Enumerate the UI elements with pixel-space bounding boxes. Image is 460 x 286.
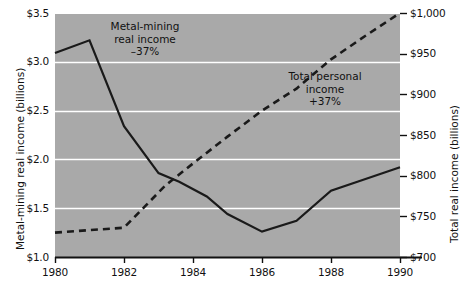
annotation-metal-mining-line2: real income <box>92 33 198 46</box>
left-axis-title: Metal-mining real income (billions) <box>14 68 26 250</box>
annotation-metal-mining: Metal-mining real income –37% <box>92 20 198 58</box>
right-axis-tick-label: $900 <box>410 88 436 100</box>
right-axis-tick-label: $950 <box>410 47 436 59</box>
right-axis-tick-label: $700 <box>410 251 436 263</box>
annotation-total-personal-line2: income <box>272 83 378 96</box>
x-axis-tick-label: 1988 <box>306 266 356 278</box>
x-axis-tick-label: 1982 <box>99 266 149 278</box>
right-axis-tick-label: $750 <box>410 210 436 222</box>
annotation-metal-mining-line3: –37% <box>92 45 198 58</box>
left-axis-tick-label: $3.5 <box>0 7 49 19</box>
annotation-total-personal-line3: +37% <box>272 95 378 108</box>
annotation-metal-mining-line1: Metal-mining <box>92 20 198 33</box>
x-axis-tick-label: 1990 <box>375 266 425 278</box>
annotation-total-personal-line1: Total personal <box>272 70 378 83</box>
x-axis-tick-label: 1980 <box>30 266 80 278</box>
right-axis-title: Total real income (billions) <box>448 105 460 243</box>
left-axis-tick-label: $3.0 <box>0 55 49 67</box>
x-axis-tick-label: 1984 <box>168 266 218 278</box>
x-axis-tick-label: 1986 <box>237 266 287 278</box>
annotation-total-personal: Total personal income +37% <box>272 70 378 108</box>
right-axis-ticks <box>400 14 407 258</box>
left-axis-tick-label: $1.0 <box>0 251 49 263</box>
right-axis-tick-label: $800 <box>410 169 436 181</box>
right-axis-tick-label: $850 <box>410 129 436 141</box>
right-axis-tick-label: $1,000 <box>410 7 446 19</box>
